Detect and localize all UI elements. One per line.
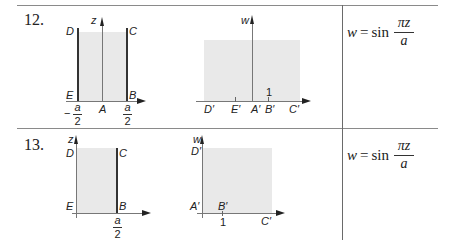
point-C: C [129, 26, 137, 37]
half-strip-region [77, 148, 117, 213]
z-axis-arrow-icon [74, 135, 78, 144]
tick-minus-sign: − [64, 108, 70, 119]
quadrant-region [203, 148, 272, 213]
tick-a-over-2: a 2 [113, 215, 122, 240]
tick-mark-E-prime [235, 97, 236, 102]
z-axis [102, 22, 103, 101]
x-axis [72, 213, 144, 214]
point-E-prime: E′ [231, 104, 240, 115]
z-axis [76, 140, 77, 218]
point-B: B [129, 90, 136, 101]
mapping-formula: w = sin πz a [347, 16, 414, 48]
boundary-line-left [77, 28, 79, 101]
axis-label-z: z [91, 15, 97, 26]
x-axis-arrow-icon [142, 210, 151, 216]
row-number: 12. [24, 11, 44, 29]
point-B-prime: B′ [218, 201, 227, 212]
real-axis-arrow-icon [302, 98, 311, 104]
tick-one: 1 [220, 217, 226, 228]
point-D: D [66, 148, 74, 159]
point-B-prime: B′ [265, 104, 274, 115]
boundary-line-right [116, 148, 118, 213]
point-B: B [119, 201, 126, 212]
tick-a-over-2: a 2 [123, 102, 132, 127]
tick-one: 1 [266, 87, 272, 98]
w-axis [252, 20, 253, 102]
point-C: C [119, 148, 127, 159]
point-C-prime: C′ [261, 216, 271, 227]
axis-label-w: w [193, 134, 201, 145]
point-D-prime: D′ [191, 146, 201, 157]
point-A-prime: A′ [190, 201, 199, 212]
row-divider [17, 128, 438, 129]
point-E: E [66, 90, 73, 101]
column-divider [342, 5, 343, 240]
w-axis-arrow-icon [250, 15, 254, 24]
real-axis [196, 101, 304, 102]
w-axis [202, 140, 203, 218]
real-axis [197, 213, 277, 214]
tick-minus-a-over-2: a 2 [73, 102, 82, 127]
axis-label-w: w [241, 15, 249, 26]
point-D: D [66, 26, 74, 37]
point-E: E [66, 201, 73, 212]
z-axis-arrow-icon [100, 17, 104, 26]
axis-label-z: z [68, 134, 74, 145]
mapping-formula: w = sin πz a [347, 139, 414, 171]
point-A: A [99, 104, 106, 115]
point-C-prime: C′ [289, 104, 299, 115]
x-axis-arrow-icon [137, 98, 146, 104]
real-axis-arrow-icon [276, 210, 285, 216]
table-top-border [17, 5, 438, 6]
point-A-prime: A′ [251, 104, 260, 115]
point-D-prime: D′ [204, 104, 214, 115]
row-number: 13. [24, 136, 44, 154]
boundary-line-right [126, 28, 128, 101]
